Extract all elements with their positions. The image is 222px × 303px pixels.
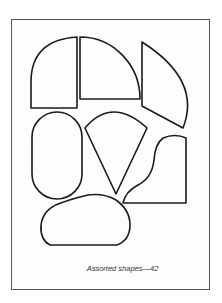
quarter-circle-shape (80, 37, 140, 99)
circular-sector-shape (142, 42, 188, 128)
cone-sector-shape (85, 112, 147, 194)
shapes-canvas (0, 0, 222, 303)
stadium-shape (32, 112, 82, 199)
quarter-rounded-rect-shape (31, 37, 77, 108)
rounded-blob-shape (41, 195, 130, 245)
wavy-quadrilateral-shape (123, 136, 186, 204)
